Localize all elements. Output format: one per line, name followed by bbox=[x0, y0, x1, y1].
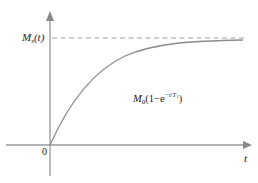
formula-m: M bbox=[133, 93, 142, 104]
x-axis-label: t bbox=[244, 152, 247, 164]
asymptote-label: Ms(t) bbox=[22, 31, 44, 45]
y-axis-arrow-icon bbox=[46, 11, 54, 21]
relaxation-curve-diagram bbox=[0, 0, 258, 183]
formula-exponent: −t/T bbox=[165, 91, 177, 98]
curve-formula: M0(1−e−t/T1) bbox=[133, 91, 182, 106]
x-axis-arrow-icon bbox=[243, 141, 252, 149]
asymptote-label-m: M bbox=[22, 31, 31, 43]
asymptote-label-arg: (t) bbox=[34, 31, 44, 43]
formula-close: ) bbox=[179, 93, 183, 104]
formula-open: (1−e bbox=[145, 93, 164, 104]
origin-label: 0 bbox=[42, 146, 47, 157]
